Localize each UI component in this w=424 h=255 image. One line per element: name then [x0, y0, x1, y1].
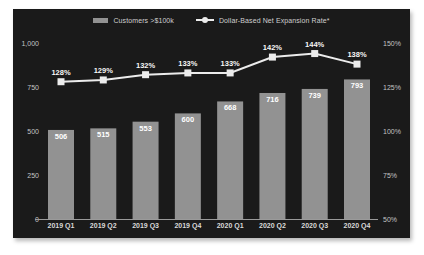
right-axis-tick: 150% — [383, 40, 401, 47]
line-value-label: 133% — [178, 59, 198, 68]
line-value-label: 144% — [305, 40, 325, 49]
chart-card: Customers >$100k Dollar-Based Net Expans… — [13, 9, 410, 238]
line-marker-2019-q2 — [100, 76, 107, 83]
bar-2020-q4 — [344, 79, 370, 219]
bar-value-label: 553 — [139, 124, 152, 133]
bar-2019-q4 — [175, 113, 201, 219]
line-value-label: 133% — [221, 59, 241, 68]
x-axis-label: 2019 Q1 — [48, 222, 75, 230]
bar-value-label: 515 — [97, 130, 110, 139]
line-value-label: 138% — [347, 50, 367, 59]
bar-value-label: 668 — [224, 103, 237, 112]
right-axis-tick: 125% — [383, 84, 401, 91]
line-marker-2019-q1 — [58, 78, 65, 85]
bar-value-label: 739 — [308, 91, 321, 100]
bar-2019-q3 — [133, 122, 159, 219]
line-marker-2019-q3 — [142, 71, 149, 78]
bar-2020-q2 — [259, 93, 285, 219]
combo-chart: 1,0007505002500150%125%100%75%50%5065155… — [13, 9, 410, 238]
x-axis-label: 2020 Q4 — [344, 222, 371, 230]
line-marker-2020-q3 — [311, 50, 318, 57]
line-marker-2019-q4 — [184, 69, 191, 76]
x-axis-label: 2020 Q1 — [217, 222, 244, 230]
x-axis-label: 2020 Q2 — [259, 222, 286, 230]
line-value-label: 142% — [263, 43, 283, 52]
line-marker-2020-q1 — [227, 69, 234, 76]
left-axis-tick: 1,000 — [21, 40, 39, 47]
line-marker-2020-q2 — [269, 54, 276, 61]
left-axis-tick: 250 — [27, 172, 39, 179]
bar-value-label: 506 — [55, 132, 68, 141]
bar-2019-q1 — [48, 130, 74, 219]
bar-value-label: 716 — [266, 95, 279, 104]
bar-2019-q2 — [90, 128, 116, 219]
x-axis-label: 2019 Q2 — [90, 222, 117, 230]
x-axis-label: 2019 Q3 — [132, 222, 159, 230]
bar-2020-q3 — [302, 89, 328, 219]
x-axis-label: 2019 Q4 — [174, 222, 201, 230]
right-axis-tick: 50% — [383, 216, 397, 223]
left-axis-tick: 750 — [27, 84, 39, 91]
x-axis-label: 2020 Q3 — [301, 222, 328, 230]
bar-value-label: 600 — [182, 115, 195, 124]
line-value-label: 128% — [51, 68, 71, 77]
right-axis-tick: 75% — [383, 172, 397, 179]
right-axis-tick: 100% — [383, 128, 401, 135]
left-axis-tick: 500 — [27, 128, 39, 135]
line-value-label: 129% — [94, 66, 114, 75]
bar-2020-q1 — [217, 101, 243, 219]
line-value-label: 132% — [136, 61, 156, 70]
line-marker-2020-q4 — [353, 61, 360, 68]
bar-value-label: 793 — [351, 81, 364, 90]
